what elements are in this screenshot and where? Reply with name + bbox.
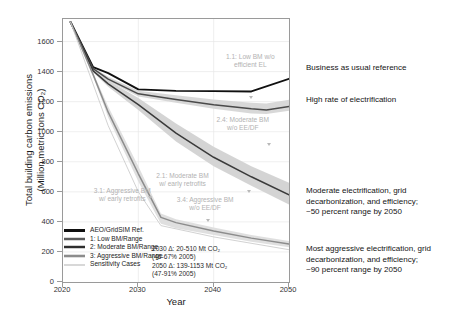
y-tick-label: 600 [26,187,54,196]
legend-swatch [64,245,85,249]
chart-callout-2-1: 2.1: Moderate BM w/ early retrofits [143,172,223,188]
callout-arrow-icon [206,219,210,222]
chart-callout-2-4: 2.4: Moderate BM w/o EE/DF [203,116,283,132]
x-tick-mark [288,283,289,287]
callout-arrow-icon [148,196,152,199]
x-tick-mark [213,283,214,287]
y-tick-label: 1000 [26,127,54,136]
legend-label: AEO/GridSIM Ref. [90,226,144,235]
chart-page: Total building carbon emissions (Million… [0,0,457,313]
y-tick-label: 1400 [26,67,54,76]
legend-item[interactable]: 2: Moderate BM/Range [64,243,163,252]
side-annotation: Most aggressive electrification, grid de… [306,244,431,276]
legend-label: 1: Low BM/Range [90,235,142,244]
side-annotation: High rate of electrification [306,95,396,106]
legend-item[interactable]: AEO/GridSIM Ref. [64,226,163,235]
callout-arrow-icon [247,190,251,193]
chart-callout-1-1: 1.1: Low BM w/o efficient EL [210,53,290,69]
y-tick-label: 1600 [26,37,54,46]
delta-note: 2030 Δ: 20-510 Mt CO₂ (46-67% 2005) 2050… [152,245,227,279]
x-tick-mark [62,283,63,287]
side-annotation: Moderate electrification, grid decarboni… [306,186,418,218]
chart-legend: AEO/GridSIM Ref.1: Low BM/Range2: Modera… [64,226,163,269]
legend-swatch [64,254,85,258]
y-tick-label: 1200 [26,97,54,106]
legend-label: 2: Moderate BM/Range [90,243,158,252]
legend-label: 3: Aggressive BM/Range [90,252,163,261]
legend-swatch [64,237,85,241]
callout-arrow-icon [249,96,253,99]
x-tick-mark [137,283,138,287]
legend-swatch [64,229,85,232]
y-tick-label: 800 [26,157,54,166]
callout-arrow-icon [267,143,271,146]
y-tick-label: 200 [26,247,54,256]
legend-item[interactable]: Sensitivity Cases [64,260,163,269]
y-tick-label: 400 [26,217,54,226]
y-axis-title: Total building carbon emissions (Million… [23,10,47,270]
x-axis-title: Year [62,296,290,307]
legend-item[interactable]: 3: Aggressive BM/Range [64,252,163,261]
legend-label: Sensitivity Cases [90,260,140,269]
chart-callout-3-4: 3.4: Aggressive BM w/o EE/DF [165,196,245,212]
side-annotation: Business as usual reference [306,63,407,74]
legend-item[interactable]: 1: Low BM/Range [64,235,163,244]
legend-swatch [64,264,85,266]
